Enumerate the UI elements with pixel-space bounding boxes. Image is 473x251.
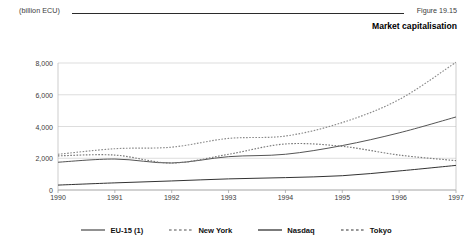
legend-item[interactable]: New York: [169, 226, 232, 235]
x-axis-tick-label: 1993: [221, 194, 237, 201]
legend-label: EU-15 (1): [110, 226, 143, 235]
line-chart-canvas: [0, 40, 473, 210]
series-line-eu-15-1: [58, 117, 456, 163]
plot-area: 02,0004,0006,0008,000 199019911992199319…: [0, 40, 473, 210]
chart-legend: EU-15 (1)New YorkNasdaqTokyo: [0, 219, 473, 241]
figure-container: (billion ECU) Figure 19.15 Market capita…: [0, 0, 473, 251]
legend-line-swatch: [81, 226, 105, 234]
x-axis-tick-label: 1997: [448, 194, 464, 201]
series-line-nasdaq: [58, 165, 456, 185]
legend-item[interactable]: Nasdaq: [258, 226, 314, 235]
page-title: Market capitalisation: [372, 21, 457, 31]
legend-label: Tokyo: [370, 226, 392, 235]
unit-label: (billion ECU): [19, 6, 60, 15]
x-axis-tick-label: 1994: [278, 194, 294, 201]
legend-line-swatch: [169, 226, 193, 234]
header-divider: [72, 13, 404, 14]
legend-line-swatch: [258, 226, 282, 234]
series-line-new-york: [58, 62, 456, 154]
x-axis-tick-label: 1995: [334, 194, 350, 201]
figure-number: Figure 19.15: [417, 6, 457, 15]
series-line-tokyo: [58, 144, 456, 163]
x-axis-tick-label: 1991: [107, 194, 123, 201]
legend-item[interactable]: Tokyo: [341, 226, 392, 235]
x-axis-tick-label: 1992: [164, 194, 180, 201]
x-axis-labels: 19901991199219931994199519961997: [0, 190, 473, 210]
x-axis-tick-label: 1990: [50, 194, 66, 201]
x-axis-tick-label: 1996: [391, 194, 407, 201]
legend-item[interactable]: EU-15 (1): [81, 226, 143, 235]
legend-label: New York: [198, 226, 232, 235]
figure-header: (billion ECU) Figure 19.15 Market capita…: [0, 0, 473, 40]
legend-line-swatch: [341, 226, 365, 234]
legend-label: Nasdaq: [287, 226, 314, 235]
